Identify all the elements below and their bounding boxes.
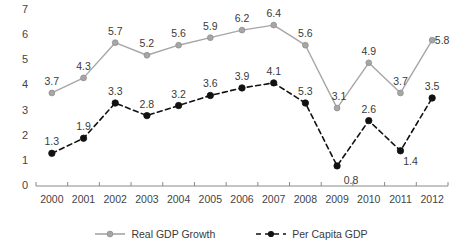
data-point [175, 102, 181, 108]
x-axis-tick-label: 2010 [352, 194, 386, 205]
x-axis-tick-label: 2002 [98, 194, 132, 205]
data-label: 2.8 [134, 99, 160, 110]
legend-item-real-gdp-growth[interactable]: Real GDP Growth [94, 228, 215, 240]
data-point [271, 22, 277, 28]
data-label: 3.1 [326, 91, 352, 102]
data-point [270, 80, 276, 86]
y-axis-tick-label: 1 [10, 155, 28, 166]
data-label: 1.4 [397, 156, 423, 167]
data-label: 4.1 [261, 66, 287, 77]
data-point [207, 92, 213, 98]
legend-marker-dashed-icon [255, 229, 287, 239]
data-label: 4.3 [71, 61, 97, 72]
data-label: 1.9 [71, 121, 97, 132]
x-axis-tick-label: 2006 [225, 194, 259, 205]
data-point [366, 60, 372, 66]
data-point [80, 135, 86, 141]
data-point [429, 95, 435, 101]
data-point [239, 27, 245, 33]
data-label: 5.3 [292, 86, 318, 97]
data-label: 0.8 [338, 175, 364, 186]
chart-legend: Real GDP Growth Per Capita GDP [0, 224, 462, 244]
legend-label-per-capita-gdp: Per Capita GDP [292, 228, 367, 240]
data-label: 3.7 [39, 76, 65, 87]
data-point [176, 42, 182, 48]
data-label: 5.8 [429, 35, 455, 46]
x-axis-tick-label: 2001 [67, 194, 101, 205]
y-axis-tick-label: 3 [10, 105, 28, 116]
data-label: 5.6 [166, 28, 192, 39]
x-axis-tick-label: 2012 [415, 194, 449, 205]
data-label: 3.2 [166, 89, 192, 100]
data-point [81, 75, 87, 81]
data-point [207, 35, 213, 41]
x-axis-tick-label: 2009 [320, 194, 354, 205]
legend-label-real-gdp-growth: Real GDP Growth [131, 228, 215, 240]
x-axis-tick-label: 2008 [288, 194, 322, 205]
data-label: 6.2 [229, 13, 255, 24]
data-point [366, 117, 372, 123]
y-axis-tick-label: 6 [10, 29, 28, 40]
x-axis-tick-label: 2004 [162, 194, 196, 205]
data-point [49, 90, 55, 96]
data-label: 3.5 [419, 81, 445, 92]
x-axis-tick-label: 2003 [130, 194, 164, 205]
data-point [302, 100, 308, 106]
data-point [334, 163, 340, 169]
data-point [398, 90, 404, 96]
data-label: 2.6 [356, 104, 382, 115]
y-axis-tick-label: 0 [10, 180, 28, 191]
data-label: 5.7 [102, 26, 128, 37]
x-axis-tick-label: 2000 [35, 194, 69, 205]
y-axis-tick-label: 2 [10, 130, 28, 141]
data-point [334, 105, 340, 111]
data-point [49, 150, 55, 156]
data-label: 3.3 [102, 86, 128, 97]
data-label: 5.6 [292, 28, 318, 39]
data-point [239, 85, 245, 91]
line-chart: 01234567 3.74.35.75.25.65.96.26.45.63.14… [0, 0, 462, 250]
y-axis-tick-label: 4 [10, 79, 28, 90]
data-label: 3.7 [387, 76, 413, 87]
chart-plot-area [0, 0, 462, 250]
data-label: 1.3 [39, 136, 65, 147]
data-point [144, 52, 150, 58]
data-label: 3.6 [197, 78, 223, 89]
x-axis-tick-label: 2005 [193, 194, 227, 205]
legend-item-per-capita-gdp[interactable]: Per Capita GDP [255, 228, 367, 240]
data-label: 5.9 [197, 21, 223, 32]
data-label: 6.4 [261, 8, 287, 19]
data-point [144, 112, 150, 118]
data-point [302, 42, 308, 48]
data-point [112, 100, 118, 106]
x-axis-tick-label: 2007 [257, 194, 291, 205]
data-point [397, 148, 403, 154]
y-axis-tick-label: 5 [10, 54, 28, 65]
legend-marker-solid-icon [94, 229, 126, 239]
data-label: 3.9 [229, 71, 255, 82]
x-axis-tick-label: 2011 [383, 194, 417, 205]
data-point [112, 40, 118, 46]
y-axis-tick-label: 7 [10, 4, 28, 15]
data-label: 4.9 [356, 46, 382, 57]
data-label: 5.2 [134, 38, 160, 49]
